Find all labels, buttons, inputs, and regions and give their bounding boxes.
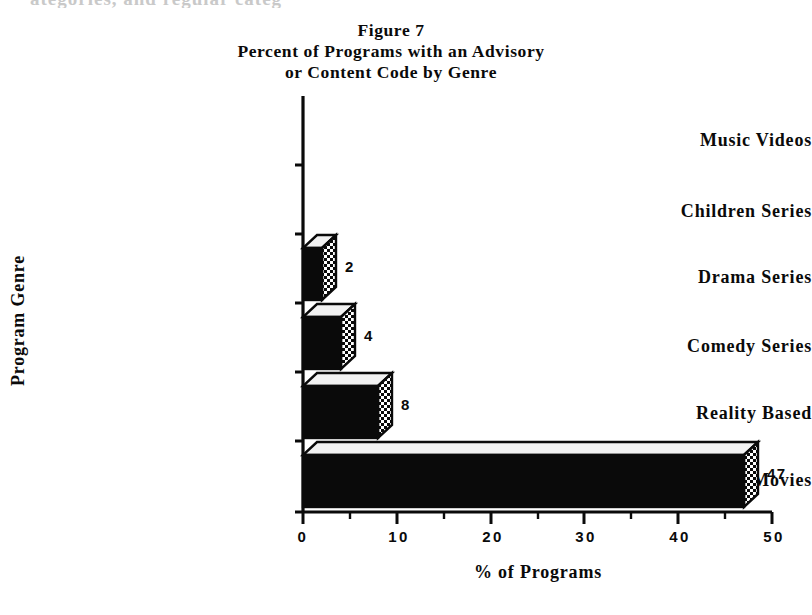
bar-value-drama-series: 2 [345, 258, 355, 275]
xtick-label-20: 20 [469, 528, 517, 545]
x-axis-title: % of Programs [303, 562, 773, 583]
bar-value-movies: 47 [767, 465, 787, 482]
bar-value-comedy-series: 4 [364, 327, 374, 344]
chart-plot-area: Music Videos Children Series Drama Serie… [0, 0, 812, 615]
xtick-label-0: 0 [283, 528, 323, 545]
bar-comedy-series [303, 304, 355, 369]
bar-movies [303, 442, 758, 507]
bar-drama-series [303, 235, 336, 300]
xtick-label-40: 40 [656, 528, 704, 545]
bar-value-reality-based: 8 [401, 396, 411, 413]
xtick-label-30: 30 [562, 528, 610, 545]
chart-svg [0, 0, 812, 615]
bar-reality-based [303, 373, 392, 438]
y-axis-title: Program Genre [8, 221, 29, 421]
xtick-label-50: 50 [750, 528, 798, 545]
xtick-label-10: 10 [375, 528, 423, 545]
